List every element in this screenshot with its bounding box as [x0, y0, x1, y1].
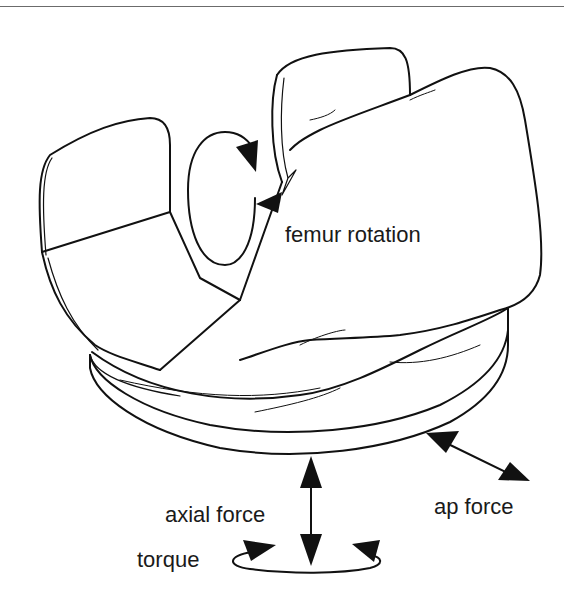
femur-rotation-label: femur rotation: [285, 224, 421, 246]
ap-force-arrow: [426, 431, 530, 481]
femur-left-condyle: [40, 118, 240, 370]
axial-force-arrow: [300, 456, 322, 566]
femur-rotation-arrow: [188, 132, 282, 265]
ap-force-label: ap force: [434, 496, 514, 518]
torque-label: torque: [137, 549, 199, 571]
axial-force-label: axial force: [165, 504, 265, 526]
tibial-insert: [92, 308, 508, 412]
femur-right-condyle: [240, 48, 541, 360]
